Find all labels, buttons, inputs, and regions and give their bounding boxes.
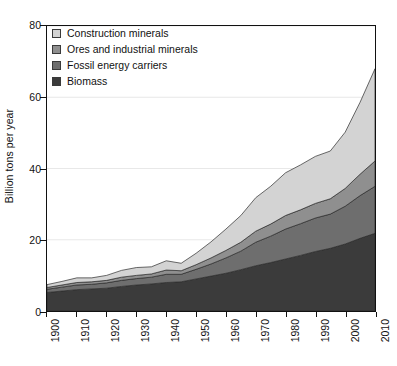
y-axis-title: Billion tons per year [0, 0, 18, 312]
x-axis-tick-label: 1950 [200, 319, 211, 359]
x-axis-tick-mark [376, 312, 377, 317]
legend-item[interactable]: Ores and industrial minerals [52, 43, 198, 56]
legend-swatch-icon [52, 77, 61, 86]
x-axis-tick-label: 1910 [80, 319, 91, 359]
legend-item[interactable]: Fossil energy carriers [52, 59, 198, 72]
x-axis-tick-label: 2010 [380, 319, 391, 359]
x-axis-tick-label: 1990 [320, 319, 331, 359]
y-axis-tick-label: 20 [17, 235, 41, 246]
x-axis-tick-label: 1940 [170, 319, 181, 359]
y-axis-tick-label: 0 [17, 307, 41, 318]
x-axis-tick-mark [346, 312, 347, 317]
x-axis-tick-label: 1930 [140, 319, 151, 359]
x-axis-tick-label: 1920 [110, 319, 121, 359]
stacked-area-chart: Billion tons per year 020406080 19001910… [0, 0, 397, 366]
legend-label: Construction minerals [67, 28, 169, 39]
x-axis-tick-label: 1980 [290, 319, 301, 359]
x-axis-tick-mark [46, 312, 47, 317]
x-axis-tick-mark [286, 312, 287, 317]
x-axis-tick-mark [166, 312, 167, 317]
x-axis-tick-label: 1900 [50, 319, 61, 359]
x-axis-tick-mark [136, 312, 137, 317]
x-axis-tick-mark [256, 312, 257, 317]
y-axis-tick-label: 40 [17, 163, 41, 174]
y-axis-tick-labels: 020406080 [17, 0, 41, 366]
legend-label: Ores and industrial minerals [67, 44, 198, 55]
x-axis-tick-label: 2000 [350, 319, 361, 359]
x-axis-tick-label: 1960 [230, 319, 241, 359]
x-axis-tick-mark [226, 312, 227, 317]
legend-label: Fossil energy carriers [67, 60, 167, 71]
legend-label: Biomass [67, 76, 107, 87]
y-axis-title-text: Billion tons per year [3, 109, 15, 203]
legend-item[interactable]: Biomass [52, 75, 198, 88]
legend-swatch-icon [52, 61, 61, 70]
legend-swatch-icon [52, 29, 61, 38]
x-axis-tick-mark [76, 312, 77, 317]
y-axis-tick-label: 80 [17, 20, 41, 31]
y-axis-tick-label: 60 [17, 92, 41, 103]
x-axis-tick-mark [196, 312, 197, 317]
legend-swatch-icon [52, 45, 61, 54]
x-axis-tick-label: 1970 [260, 319, 271, 359]
x-axis-tick-mark [316, 312, 317, 317]
chart-legend: Construction mineralsOres and industrial… [52, 27, 198, 88]
x-axis-tick-mark [106, 312, 107, 317]
legend-item[interactable]: Construction minerals [52, 27, 198, 40]
